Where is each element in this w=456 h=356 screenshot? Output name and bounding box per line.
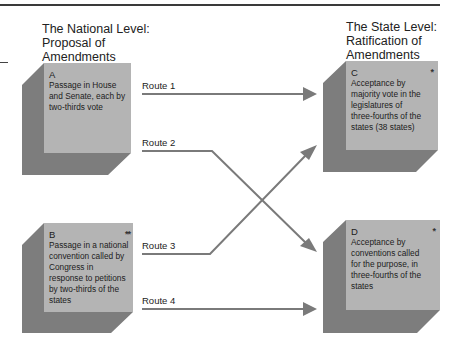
route-3-line <box>142 154 307 254</box>
route-4-arrowhead-icon <box>303 302 317 316</box>
route-2-line <box>142 151 307 244</box>
route-1-label: Route 1 <box>142 80 175 91</box>
route-1-arrowhead-icon <box>303 87 317 101</box>
route-2-label: Route 2 <box>142 137 175 148</box>
route-3-label: Route 3 <box>142 240 175 251</box>
route-arrows <box>0 0 456 356</box>
route-4-label: Route 4 <box>142 295 175 306</box>
